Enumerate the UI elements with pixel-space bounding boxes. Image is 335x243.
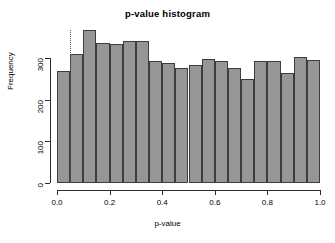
x-axis-tick-label: 0.4 [147, 198, 177, 207]
histogram-bar [110, 44, 123, 183]
histogram-bar [175, 68, 188, 183]
x-axis-tick [110, 190, 111, 195]
histogram-bar [57, 71, 70, 183]
histogram-bar [281, 73, 294, 183]
histogram-bar [254, 61, 267, 183]
histogram-bar [202, 59, 215, 183]
histogram-bar [294, 57, 307, 183]
y-axis-line [50, 58, 51, 183]
y-axis-tick-label: 100 [37, 141, 45, 171]
plot-area [57, 30, 320, 183]
x-axis-tick-label: 0.6 [200, 198, 230, 207]
histogram-bar [70, 54, 83, 183]
x-axis-tick-label: 1.0 [305, 198, 335, 207]
x-axis-tick-label: 0.8 [252, 198, 282, 207]
x-axis-tick [57, 190, 58, 195]
histogram-bar [307, 60, 320, 183]
histogram-bar [123, 41, 136, 183]
y-axis-title: Frequency [6, 76, 16, 90]
chart-title: p-value histogram [0, 8, 335, 20]
histogram-bar [228, 68, 241, 183]
y-axis-tick [45, 141, 50, 142]
histogram-bar [162, 63, 175, 183]
x-axis-tick [215, 190, 216, 195]
histogram-bar [136, 41, 149, 183]
y-axis-tick-label: 300 [37, 58, 45, 88]
y-axis-tick [45, 100, 50, 101]
y-axis-tick [45, 183, 50, 184]
histogram-bar [96, 43, 109, 183]
y-axis-tick [45, 58, 50, 59]
histogram-figure: p-value histogram Frequency 0100200300 0… [0, 0, 335, 243]
histogram-bar [267, 61, 280, 183]
x-axis-line [57, 190, 320, 191]
x-axis-tick [320, 190, 321, 195]
x-axis-title: p-value [0, 219, 335, 229]
histogram-bar [149, 61, 162, 183]
significance-threshold-line [70, 30, 71, 183]
x-axis-tick [162, 190, 163, 195]
y-axis-tick-label: 200 [37, 100, 45, 130]
histogram-bar [83, 30, 96, 183]
x-axis-tick-label: 0.2 [95, 198, 125, 207]
histogram-bar [241, 79, 254, 183]
x-axis-tick [267, 190, 268, 195]
histogram-bar [215, 61, 228, 183]
histogram-bar [189, 65, 202, 183]
x-axis-tick-label: 0.0 [42, 198, 72, 207]
